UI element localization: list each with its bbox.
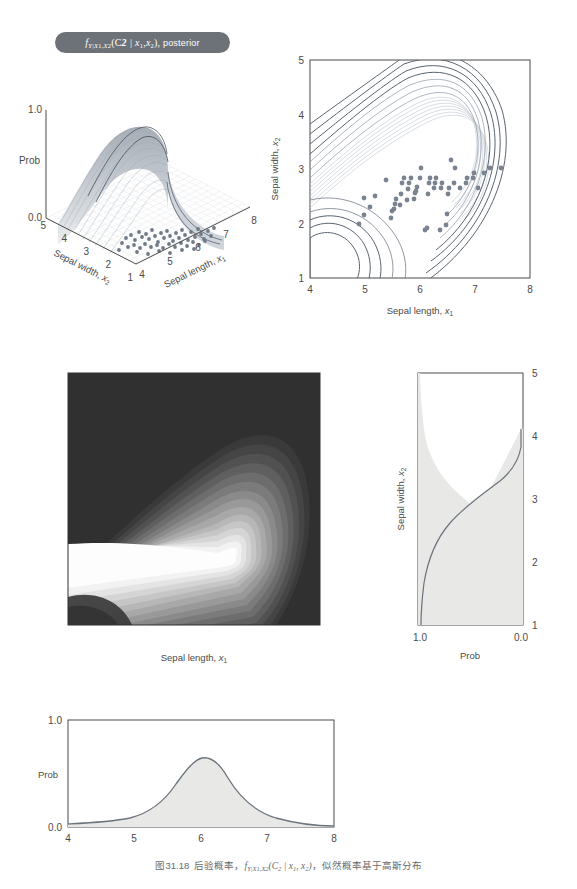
svg-text:3: 3	[83, 246, 89, 257]
panel-marginal-right: 5 4 3 2 1 Sepal width, x2 1.0 0.0 Prob	[408, 373, 573, 703]
caption-text-before: 后验概率，	[194, 860, 244, 871]
svg-text:8: 8	[527, 284, 533, 295]
marginal-right-y-ticks: 5 4 3 2 1	[532, 368, 538, 631]
svg-text:1.0: 1.0	[48, 715, 62, 726]
title-formula: fY|X1,X2(C2 | x1,x2), posterior	[85, 37, 200, 49]
svg-text:8: 8	[331, 833, 337, 844]
svg-text:1: 1	[532, 620, 538, 631]
marginal-right-x-ticks: 1.0 0.0	[413, 632, 528, 643]
svg-text:4: 4	[532, 431, 538, 442]
svg-text:4: 4	[139, 269, 145, 280]
marginal-right-x-axis-label: Prob	[460, 650, 480, 661]
svg-text:1.0: 1.0	[413, 632, 427, 643]
svg-text:5: 5	[167, 256, 173, 267]
svg-text:3: 3	[532, 494, 538, 505]
contour-y-axis-label: Sepal width, x2	[269, 137, 281, 200]
panel-heatmap: Sepal length, x1	[68, 373, 358, 673]
svg-text:2: 2	[532, 557, 538, 568]
svg-text:2: 2	[298, 219, 304, 230]
marginal-right-svg: 5 4 3 2 1 Sepal width, x2 1.0 0.0 Prob	[408, 373, 573, 703]
contour-y-ticks: 5 4 3 2 1	[298, 55, 304, 284]
contour-x-ticks: 4 5 6 7 8	[307, 284, 533, 295]
svg-text:5: 5	[298, 55, 304, 66]
svg-text:7: 7	[223, 229, 229, 240]
panel-contour: 5 4 3 2 1 Sepal width, x2 4 5 6 7 8 Sepa…	[288, 42, 568, 332]
svg-text:0.0: 0.0	[514, 632, 528, 643]
heatmap-x-axis-label: Sepal length, x1	[161, 652, 228, 664]
svg-text:4: 4	[65, 833, 71, 844]
contour-svg: 5 4 3 2 1 Sepal width, x2 4 5 6 7 8 Sepa…	[288, 42, 568, 332]
svg-text:2: 2	[105, 259, 111, 270]
svg-text:6: 6	[417, 284, 423, 295]
surface-mesh	[58, 127, 224, 254]
svg-text:4: 4	[298, 110, 304, 121]
figure-caption: 图31.18 后验概率，fY|X1,X2(C2 | x1, x2)，似然概率基于…	[0, 858, 577, 872]
svg-text:6: 6	[195, 242, 201, 253]
marginal-right-y-axis-label: Sepal width, x2	[395, 467, 407, 530]
svg-text:5: 5	[131, 833, 137, 844]
panel-marginal-bottom: 1.0 0.0 Prob 4 5 6 7 8	[18, 712, 358, 852]
svg-text:3: 3	[298, 164, 304, 175]
panel-3d-surface: 1.0 0.0 Prob 5 4 3 2 1 Sepal width, x2 4…	[18, 92, 288, 292]
marginal-bottom-y-axis-label: Prob	[38, 769, 58, 780]
svg-text:8: 8	[251, 215, 257, 226]
svg-text:5: 5	[362, 284, 368, 295]
figure-title-banner: fY|X1,X2(C2 | x1,x2), posterior	[55, 32, 230, 53]
svg-text:6: 6	[198, 833, 204, 844]
svg-text:5: 5	[532, 368, 538, 379]
caption-text-after: ，似然概率基于高斯分布	[312, 860, 422, 871]
caption-formula: fY|X1,X2(C2 | x1, x2)	[244, 861, 311, 871]
surface3d-svg: 1.0 0.0 Prob 5 4 3 2 1 Sepal width, x2 4…	[18, 92, 288, 292]
svg-text:1: 1	[298, 273, 304, 284]
svg-text:4: 4	[307, 284, 313, 295]
svg-text:7: 7	[472, 284, 478, 295]
svg-text:4: 4	[61, 233, 67, 244]
svg-text:0.0: 0.0	[48, 822, 62, 833]
caption-figure-number: 图31.18	[155, 860, 189, 871]
heatmap-svg: Sepal length, x1	[68, 373, 358, 673]
marginal-bottom-x-ticks: 4 5 6 7 8	[65, 833, 337, 844]
svg-text:1: 1	[127, 272, 133, 283]
svg-text:5: 5	[40, 220, 46, 231]
svg-text:7: 7	[264, 833, 270, 844]
marginal-bottom-svg: 1.0 0.0 Prob 4 5 6 7 8	[18, 712, 358, 852]
contour-x-axis-label: Sepal length, x1	[387, 305, 454, 317]
z-axis-label: Prob	[19, 155, 41, 166]
z-tick-max: 1.0	[28, 104, 42, 115]
